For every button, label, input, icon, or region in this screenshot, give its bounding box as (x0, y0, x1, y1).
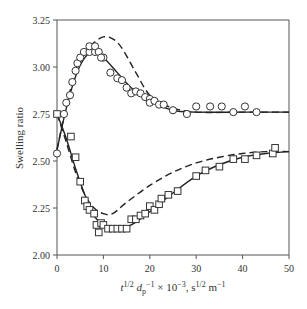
x-tick-label: 10 (98, 263, 108, 274)
square-marker (158, 195, 165, 202)
x-ticks: 01020304050 (55, 255, 295, 274)
circle-marker (63, 99, 70, 106)
circle-marker (66, 92, 73, 99)
square-marker (216, 163, 223, 170)
circle-marker (160, 101, 167, 108)
circle-marker (253, 109, 260, 116)
square-marker (230, 156, 237, 163)
circle-marker (107, 69, 114, 76)
y-tick-label: 2.25 (33, 203, 51, 214)
square-marker (54, 111, 61, 118)
dashed-model-curve (57, 114, 289, 215)
circle-marker (183, 110, 190, 117)
square-marker (174, 188, 181, 195)
swelling-ratio-chart: 2.002.252.502.753.003.25 01020304050 Swe… (0, 0, 307, 309)
y-tick-label: 2.00 (33, 250, 51, 261)
square-marker (193, 173, 200, 180)
circle-marker (169, 107, 176, 114)
square-marker (253, 152, 260, 159)
circle-marker (207, 103, 214, 110)
circle-marker (97, 54, 104, 61)
solid-model-curve (57, 52, 289, 150)
square-marker (95, 229, 102, 236)
x-tick-label: 0 (55, 263, 60, 274)
y-tick-label: 2.75 (33, 109, 51, 120)
square-marker (72, 154, 79, 161)
square-marker (242, 156, 249, 163)
x-tick-label: 50 (284, 263, 294, 274)
x-tick-label: 20 (145, 263, 155, 274)
circle-marker (72, 67, 79, 74)
square-marker (123, 225, 130, 232)
circle-marker (193, 103, 200, 110)
square-marker (165, 192, 172, 199)
square-marker (77, 178, 84, 185)
y-tick-label: 3.00 (33, 62, 51, 73)
square-marker (68, 133, 75, 140)
circle-marker (53, 150, 60, 157)
y-axis-label: Swelling ratio (13, 106, 25, 169)
x-tick-label: 40 (238, 263, 248, 274)
y-tick-label: 3.25 (33, 15, 51, 26)
square-marker (202, 167, 209, 174)
y-tick-label: 2.50 (33, 156, 51, 167)
y-ticks: 2.002.252.502.753.003.25 (33, 15, 58, 261)
square-marker (272, 145, 279, 152)
circle-marker (60, 110, 67, 117)
x-tick-label: 30 (191, 263, 201, 274)
circle-marker (69, 78, 76, 85)
data-series (53, 37, 289, 236)
circle-marker (241, 103, 248, 110)
square-marker (142, 210, 149, 217)
circle-marker (218, 103, 225, 110)
square-marker (91, 210, 98, 217)
x-axis-label: t1/2 dp−1 × 10−3, s1/2 m−1 (120, 280, 225, 296)
circle-marker (118, 77, 125, 84)
circle-marker (230, 109, 237, 116)
